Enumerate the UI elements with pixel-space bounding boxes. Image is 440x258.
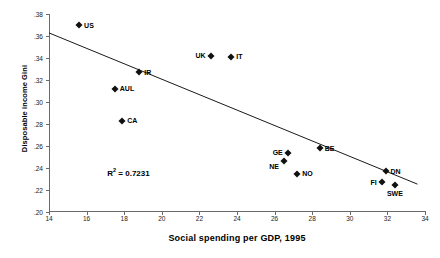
plot-area: .20.22.24.26.28.30.32.34.36.38 141618202…: [49, 14, 425, 212]
data-point-label: UK: [196, 52, 206, 59]
data-point-label: IT: [236, 53, 242, 60]
data-point-label: IR: [144, 69, 151, 76]
x-tick-label: 34: [421, 215, 428, 222]
y-tick-label: .24: [34, 165, 43, 172]
data-point-marker[interactable]: [207, 52, 214, 59]
r-squared-text: R2 = 0.7231: [107, 169, 149, 178]
y-tick-label: .38: [34, 11, 43, 18]
scatter-chart: Disposable income Gini .20.22.24.26.28.3…: [0, 0, 440, 258]
y-tick-label: .30: [34, 99, 43, 106]
data-point-label: NE: [269, 163, 279, 170]
y-tick: [46, 168, 49, 169]
data-point-label: DN: [391, 168, 401, 175]
y-tick: [46, 80, 49, 81]
data-point-marker[interactable]: [294, 170, 301, 177]
y-tick: [46, 14, 49, 15]
y-tick: [46, 36, 49, 37]
data-point-marker[interactable]: [111, 85, 118, 92]
x-tick-label: 32: [384, 215, 391, 222]
data-point-marker[interactable]: [316, 145, 323, 152]
y-tick-label: .26: [34, 143, 43, 150]
r-squared-annotation: R2 = 0.7231: [107, 167, 149, 178]
data-point-marker[interactable]: [280, 158, 287, 165]
y-axis-line: [49, 14, 50, 212]
x-tick-label: 22: [196, 215, 203, 222]
y-tick: [46, 102, 49, 103]
data-point-label: US: [84, 22, 94, 29]
data-point-marker[interactable]: [119, 117, 126, 124]
y-tick-label: .36: [34, 33, 43, 40]
y-tick: [46, 124, 49, 125]
data-point-marker[interactable]: [284, 149, 291, 156]
data-point-label: SWE: [387, 190, 403, 197]
x-tick-label: 26: [271, 215, 278, 222]
data-point-label: GE: [273, 149, 283, 156]
x-tick-label: 16: [83, 215, 90, 222]
y-tick-label: .22: [34, 187, 43, 194]
x-axis-title: Social spending per GDP, 1995: [49, 233, 425, 243]
trendline: [49, 14, 425, 212]
y-axis-title: Disposable income Gini: [20, 29, 29, 189]
data-point-marker[interactable]: [136, 69, 143, 76]
data-point-label: FI: [371, 179, 377, 186]
x-tick-label: 30: [346, 215, 353, 222]
data-point-label: NO: [302, 170, 313, 177]
y-tick-label: .20: [34, 209, 43, 216]
data-point-label: CA: [127, 117, 137, 124]
y-tick-label: .34: [34, 55, 43, 62]
x-tick-label: 18: [121, 215, 128, 222]
data-point-marker[interactable]: [378, 179, 385, 186]
x-tick-label: 20: [158, 215, 165, 222]
data-point-marker[interactable]: [382, 168, 389, 175]
y-tick-label: .28: [34, 121, 43, 128]
y-tick: [46, 146, 49, 147]
y-tick: [46, 58, 49, 59]
x-tick-label: 24: [233, 215, 240, 222]
y-tick: [46, 190, 49, 191]
data-point-label: AUL: [120, 85, 134, 92]
data-point-marker[interactable]: [76, 21, 83, 28]
data-point-label: BE: [325, 145, 335, 152]
x-tick-label: 28: [309, 215, 316, 222]
x-tick-label: 14: [45, 215, 52, 222]
y-tick-label: .32: [34, 77, 43, 84]
data-point-marker[interactable]: [391, 181, 398, 188]
data-point-marker[interactable]: [228, 53, 235, 60]
